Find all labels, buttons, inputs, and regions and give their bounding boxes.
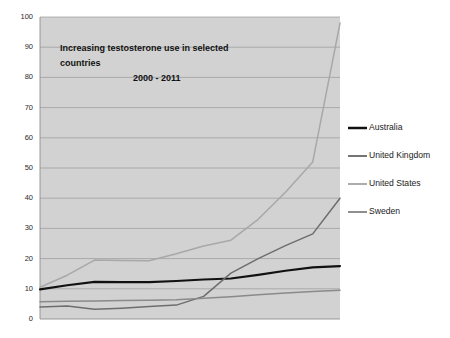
chart-title-line-1: Increasing testosterone use in selected bbox=[60, 43, 229, 53]
y-tick-label-60: 60 bbox=[25, 133, 33, 142]
y-tick-label-70: 70 bbox=[25, 103, 33, 112]
y-tick-label-90: 90 bbox=[25, 42, 33, 51]
y-tick-label-100: 100 bbox=[20, 12, 33, 21]
y-tick-label-20: 20 bbox=[25, 254, 33, 263]
legend-label-australia: Australia bbox=[369, 122, 403, 132]
y-tick-label-50: 50 bbox=[25, 163, 33, 172]
legend-label-sweden: Sweden bbox=[369, 206, 400, 216]
y-tick-label-10: 10 bbox=[25, 284, 33, 293]
y-tick-label-0: 0 bbox=[29, 314, 33, 323]
legend-label-united-kingdom: United Kingdom bbox=[369, 150, 430, 160]
y-tick-label-80: 80 bbox=[25, 72, 33, 81]
legend-label-united-states: United States bbox=[369, 178, 421, 188]
line-chart-svg: 1009080706050403020100 Increasing testos… bbox=[0, 0, 450, 338]
chart-subtitle-years: 2000 - 2011 bbox=[133, 73, 181, 83]
y-tick-label-40: 40 bbox=[25, 193, 33, 202]
chart-title-line-2: countries bbox=[60, 58, 101, 68]
y-tick-label-30: 30 bbox=[25, 223, 33, 232]
chart-container: 1009080706050403020100 Increasing testos… bbox=[0, 0, 450, 338]
